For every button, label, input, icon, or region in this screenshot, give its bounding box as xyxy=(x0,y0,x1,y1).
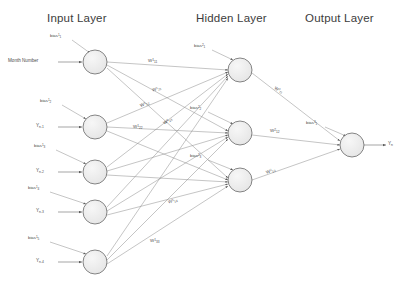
edges-input-to-hidden xyxy=(107,62,228,264)
input-label-5: Yn-4 xyxy=(36,258,44,264)
input-node-1 xyxy=(83,50,107,74)
input-label-3: Yn-2 xyxy=(36,168,44,174)
output-node-1 xyxy=(340,133,364,157)
input-node-5 xyxy=(83,250,107,274)
bias-label-output-1: bias31 xyxy=(306,120,317,126)
bias-label-hidden-3: bias23 xyxy=(190,153,201,159)
input-arrows xyxy=(58,62,82,262)
bias-label-input-4: bias14 xyxy=(28,185,39,191)
input-node-4 xyxy=(83,200,107,224)
neuron-nodes xyxy=(83,50,364,274)
bias-label-input-3: bias13 xyxy=(34,143,45,149)
bias-label-hidden-1: bias21 xyxy=(194,43,205,49)
input-node-2 xyxy=(83,115,107,139)
input-label-2: Yn-1 xyxy=(36,123,44,129)
weight-label-w1-11: W111 xyxy=(148,58,157,64)
edges-hidden-to-output xyxy=(252,73,340,180)
input-label-4: Yn-3 xyxy=(36,208,44,214)
hidden-node-1 xyxy=(228,58,252,82)
input-label-month-number: Month Number xyxy=(8,58,38,63)
weight-label-w2-12: W212 xyxy=(270,128,279,134)
bias-label-input-1: bias11 xyxy=(50,33,61,39)
weight-label-w1-33: W133 xyxy=(150,238,159,244)
bias-label-input-2: bias12 xyxy=(40,98,51,104)
hidden-node-3 xyxy=(228,168,252,192)
bias-label-input-5: bias15 xyxy=(28,235,39,241)
weight-label-w1-22: W122 xyxy=(133,124,142,130)
hidden-node-2 xyxy=(228,121,252,145)
output-value-label: Yn xyxy=(388,141,393,147)
bias-label-hidden-2: bias22 xyxy=(190,105,201,111)
input-node-3 xyxy=(83,160,107,184)
